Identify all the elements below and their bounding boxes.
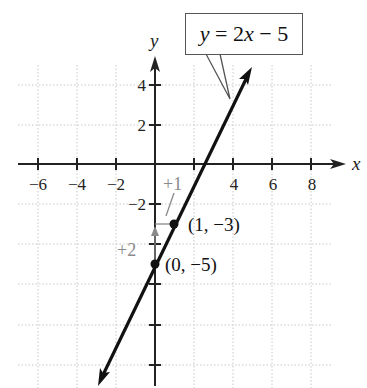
x-tick-label: −6 (29, 175, 47, 194)
x-tick-label: −2 (107, 175, 125, 194)
x-tick-label: 6 (269, 175, 278, 194)
y-tick-label: 2 (138, 116, 147, 135)
equation-eq: = 2 (210, 21, 244, 47)
line-graph: −6 −4 −2 4 6 8 4 2 −2 x y +1 +2 (1, −3) … (0, 0, 367, 388)
equation-lhs: y (200, 21, 210, 47)
x-tick-label: −4 (68, 175, 87, 194)
equation-var: x (244, 21, 254, 47)
y-tick-label: 4 (138, 76, 147, 95)
x-axis (18, 158, 346, 170)
point-0-neg5 (151, 260, 160, 269)
rise-label: +2 (117, 240, 136, 260)
y-axis-label: y (148, 30, 159, 51)
y-tick-label: −2 (128, 195, 146, 214)
x-axis-label: x (351, 153, 361, 174)
x-tick-label: 4 (230, 175, 239, 194)
equation-label: y = 2 x − 5 (185, 13, 303, 55)
equation-rest: − 5 (254, 21, 288, 47)
x-tick-label: 8 (308, 175, 317, 194)
callout-tail (206, 54, 230, 99)
y-axis (149, 56, 161, 386)
point-label: (0, −5) (165, 254, 217, 276)
run-label: +1 (163, 174, 182, 194)
point-label: (1, −3) (188, 214, 240, 236)
point-1-neg3 (170, 220, 179, 229)
